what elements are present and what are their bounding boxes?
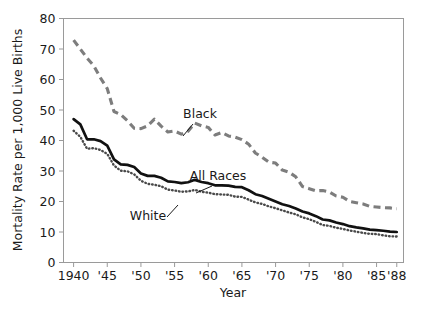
x-tick-label: '88: [387, 268, 406, 283]
x-tick-label: '70: [266, 268, 285, 283]
annotation-all-races: All Races: [190, 168, 247, 183]
y-tick-label: 0: [48, 255, 56, 270]
x-tick-label: '85: [367, 268, 386, 283]
x-tick-label: '75: [300, 268, 319, 283]
y-tick-label: 40: [40, 133, 56, 148]
x-tick-label: 1940: [58, 268, 90, 283]
x-tick-label: '80: [333, 268, 352, 283]
annotation-white: White: [130, 208, 167, 223]
mortality-rate-line-chart: 01020304050607080 1940'45'50'55'60'65'70…: [0, 0, 426, 316]
y-tick-label: 10: [40, 225, 56, 240]
x-tick-label: '60: [199, 268, 218, 283]
x-axis-title: Year: [219, 285, 247, 300]
annotation-black: Black: [183, 106, 218, 121]
y-tick-label: 50: [40, 103, 56, 118]
y-tick-label: 80: [40, 11, 56, 26]
x-tick-label: '45: [98, 268, 117, 283]
x-tick-label: '55: [165, 268, 184, 283]
y-axis-tick-labels: 01020304050607080: [40, 11, 56, 270]
x-tick-label: '65: [232, 268, 251, 283]
chart-container: 01020304050607080 1940'45'50'55'60'65'70…: [0, 0, 426, 316]
y-tick-label: 30: [40, 164, 56, 179]
y-axis-title: Mortality Rate per 1,000 Live Births: [10, 29, 25, 252]
y-tick-label: 20: [40, 194, 56, 209]
y-tick-label: 70: [40, 42, 56, 57]
x-tick-label: '50: [131, 268, 150, 283]
y-tick-label: 60: [40, 72, 56, 87]
